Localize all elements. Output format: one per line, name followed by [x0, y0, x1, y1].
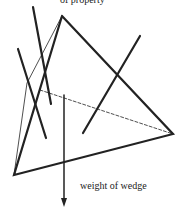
wedge-face — [14, 16, 173, 175]
arrow-head-icon — [61, 198, 67, 207]
wedge-diagram: of property weight of wedge — [0, 0, 179, 214]
discontinuity-line-3 — [83, 36, 140, 133]
discontinuity-line-1 — [33, 7, 51, 104]
discontinuity-line-2 — [18, 49, 46, 138]
weight-label: weight of wedge — [80, 180, 147, 191]
